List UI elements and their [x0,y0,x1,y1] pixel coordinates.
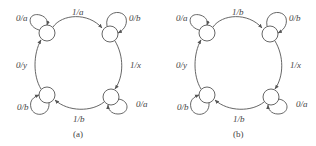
label-b-br-to-bl: 1/b [233,114,245,124]
state-a-top-left [39,25,55,41]
state-b-top-right [262,26,278,42]
state-a-bottom-right [103,89,119,105]
diagram-a: 0/a 1/a 0/b 1/x 0/a 1/b 0/b 0/y (a) [16,7,148,139]
edge-b-bl-to-tl [195,40,201,89]
label-a-tr-self: 0/b [129,13,141,23]
edge-a-tr-to-br [115,41,122,89]
state-b-bottom-left [199,87,215,103]
caption-b: (b) [233,129,244,139]
diagram-b: 0/a 1/b 0/b 1/x 0/a 1/b 0/b 0/y (b) [176,7,308,139]
edge-b-tl-to-tr [213,17,262,28]
edge-a-bl-to-tl [35,40,41,89]
label-b-bl-to-tl: 0/y [176,60,187,70]
label-a-br-to-bl: 1/b [73,114,85,124]
label-a-tl-to-tr: 1/a [72,7,84,17]
edge-b-tr-to-br [275,41,282,89]
caption-a: (a) [73,129,83,139]
state-a-bottom-left [39,87,55,103]
label-b-tr-to-br: 1/x [290,60,301,70]
edge-a-br-to-bl [55,100,104,109]
label-b-tr-self: 0/b [289,13,301,23]
state-b-top-left [199,25,215,41]
label-b-tl-to-tr: 1/b [232,7,244,17]
edge-b-br-to-bl [215,100,264,109]
label-a-bl-self: 0/b [17,102,29,112]
label-a-bl-to-tl: 0/y [16,60,27,70]
label-b-tl-self: 0/a [176,13,188,23]
label-b-br-self: 0/a [296,99,308,109]
label-a-tr-to-br: 1/x [130,60,141,70]
state-diagram-figure: 0/a 1/a 0/b 1/x 0/a 1/b 0/b 0/y (a) 0/a … [0,0,316,146]
edge-a-tl-to-tr [53,17,102,28]
label-a-br-self: 0/a [136,99,148,109]
label-b-bl-self: 0/b [177,102,189,112]
state-a-top-right [102,26,118,42]
state-b-bottom-right [263,89,279,105]
label-a-tl-self: 0/a [16,13,28,23]
